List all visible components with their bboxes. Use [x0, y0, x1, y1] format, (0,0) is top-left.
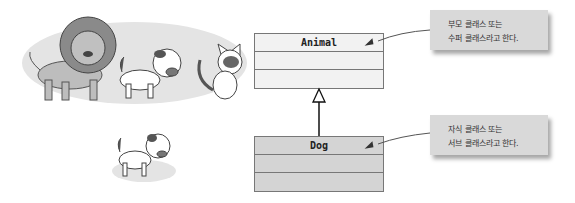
- child-class-callout: 자식 클래스 또는 서브 클래스라고 한다.: [430, 115, 548, 155]
- callout-line: 부모 클래스 또는: [448, 18, 548, 32]
- parent-class-callout: 부모 클래스 또는 수퍼 클래스라고 한다.: [430, 10, 548, 50]
- callout-line: 수퍼 클래스라고 한다.: [448, 32, 548, 46]
- callout-line: 서브 클래스라고 한다.: [448, 137, 548, 151]
- inheritance-arrow-icon: [313, 89, 325, 136]
- parent-callout-connector: [378, 30, 430, 41]
- child-callout-connector: [378, 133, 430, 144]
- callout-line: 자식 클래스 또는: [448, 123, 548, 137]
